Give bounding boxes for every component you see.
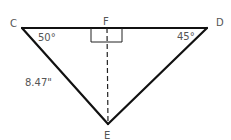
vertex-label-f: F [103, 16, 109, 27]
angle-label-d: 45° [177, 31, 195, 42]
vertex-label-e: E [104, 130, 110, 140]
vertex-label-c: C [10, 18, 17, 29]
side-de [108, 28, 207, 124]
measurement-label-ce: 8.47" [25, 77, 52, 88]
triangle-diagram: C D F E 50° 45° 8.47" [0, 0, 231, 140]
angle-label-c: 50° [38, 32, 56, 43]
vertex-label-d: D [216, 17, 224, 28]
